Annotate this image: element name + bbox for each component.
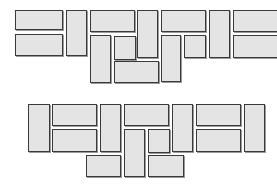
brick-t9 (161, 10, 206, 32)
brick-t11 (184, 35, 206, 58)
brick-b4 (100, 104, 121, 152)
brick-b2 (52, 104, 97, 126)
brick-t5 (90, 35, 111, 83)
brick-t4 (90, 10, 135, 32)
brick-b8 (148, 129, 170, 153)
brick-b3 (52, 129, 97, 152)
brick-t6 (114, 36, 136, 60)
brick-b9 (148, 155, 184, 177)
brick-b7 (86, 155, 121, 177)
brick-t3 (66, 10, 87, 56)
brick-t1 (15, 10, 63, 30)
diagram-canvas (0, 0, 277, 186)
brick-t14 (233, 35, 277, 58)
brick-t13 (233, 10, 277, 32)
brick-t12 (209, 10, 230, 58)
brick-b5 (124, 104, 169, 126)
top-arrangement (0, 0, 277, 93)
brick-b10 (172, 104, 193, 152)
brick-b6 (124, 129, 145, 177)
brick-t10 (161, 35, 181, 82)
brick-t7 (114, 61, 159, 83)
brick-t8 (137, 10, 158, 58)
brick-b12 (196, 129, 241, 152)
brick-b1 (28, 104, 50, 152)
brick-b11 (196, 104, 241, 126)
brick-b13 (244, 104, 265, 152)
brick-t2 (15, 34, 63, 56)
bottom-arrangement (0, 93, 277, 186)
